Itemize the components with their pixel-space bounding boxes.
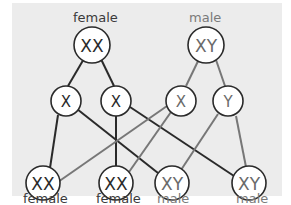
gamete-m1-label: X: [61, 93, 71, 111]
gamete-m2-label: X: [111, 93, 121, 111]
inheritance-diagram: female XX male XY X X X Y XX female XX f…: [0, 0, 291, 205]
mother-genotype: XX: [80, 36, 104, 56]
edge-m2-o4: [130, 107, 234, 176]
edge-m1-o1: [50, 115, 58, 168]
edge-f2-o4: [236, 116, 246, 167]
offspring-3-label: male: [157, 191, 189, 205]
father-genotype: XY: [195, 36, 218, 56]
father-label: male: [189, 10, 221, 25]
edge-mother-m2: [100, 57, 114, 86]
mother-label: female: [73, 10, 118, 25]
edge-father-f2: [215, 57, 225, 86]
offspring-2-label: female: [96, 191, 141, 205]
gamete-f2-label: Y: [222, 93, 233, 111]
gamete-f1-label: X: [176, 93, 186, 111]
edge-mother-m1: [68, 57, 85, 86]
offspring-4-label: male: [236, 191, 268, 205]
offspring-1-label: female: [23, 191, 68, 205]
